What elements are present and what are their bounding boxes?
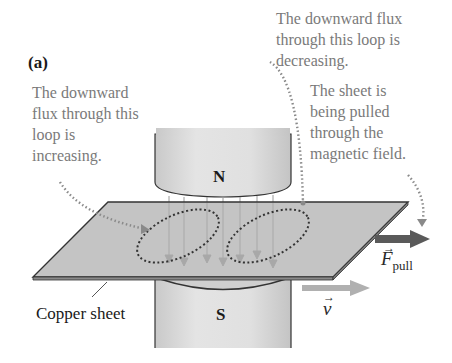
force-pull-label: → Fpull [381,248,413,270]
sheet-annotation-leader [408,175,423,224]
vector-arrow-icon: → [383,241,395,256]
panel-label: (a) [28,52,48,73]
copper-sheet-leader [92,282,107,297]
velocity-label: → v [323,298,331,320]
right-loop-annotation: The downward flux through this loop is d… [276,8,402,71]
vector-arrow-icon: → [323,290,335,305]
sheet-motion-annotation: The sheet is being pulled through the ma… [310,80,406,164]
left-loop-annotation: The downward flux through this loop is i… [32,82,139,166]
copper-sheet-label: Copper sheet [36,303,125,324]
velocity-arrow [302,280,370,296]
north-pole-label: N [213,166,225,187]
south-pole-label: S [216,304,225,325]
copper-sheet [33,202,408,280]
